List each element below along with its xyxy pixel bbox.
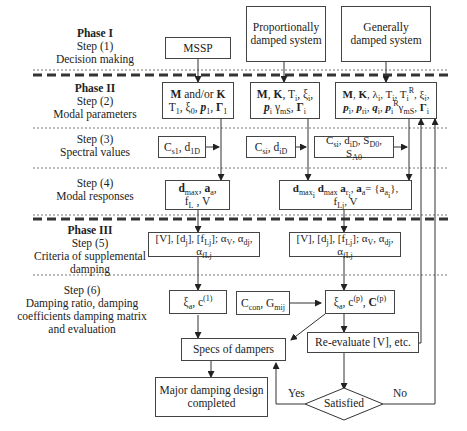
step1-label: Step (1) xyxy=(77,40,114,52)
modal-gen-line2: pi, pri, qi, piRγmS, Γi xyxy=(343,101,429,114)
damp-multi-text: ξa, c(p), C(p) xyxy=(334,296,386,309)
proportional-line1: Proportionally xyxy=(253,21,319,34)
phase2-title: Phase II xyxy=(75,82,116,94)
ccon-gmij-box: Ccon, Gmij xyxy=(236,291,290,315)
specs-text: Specs of dampers xyxy=(193,343,274,356)
phase1-label: Phase I Step (1) Decision making xyxy=(30,27,160,66)
proportional-line2: damped system xyxy=(250,34,321,47)
ccon-text: Ccon, Gmij xyxy=(241,297,285,310)
step3-desc: Spectral values xyxy=(60,146,130,158)
spectral-prop-box: Csi, diD xyxy=(246,136,296,158)
proportional-damped-box: Proportionally damped system xyxy=(246,6,326,62)
design-flowchart: Phase I Step (1) Decision making Phase I… xyxy=(0,0,467,431)
step2-label: Step (2) xyxy=(77,95,114,107)
modal-prop-line1: M, K, Ti, ξi, xyxy=(257,88,313,101)
modal-params-gen-box: M, K, λi, Ti, TiR, ξi, pi, pri, qi, piRγ… xyxy=(335,82,437,119)
generally-damped-box: Generally damped system xyxy=(341,6,431,62)
resp-mssp-line2: fL , V xyxy=(185,195,210,208)
step6-desc-3: and evaluation xyxy=(48,323,115,335)
step4-block: Step (4) Modal responses xyxy=(30,177,160,203)
modal-params-mssp-box: M and/or K T1, ξ0, p1, Γ1 xyxy=(162,82,234,119)
phase1-title: Phase I xyxy=(77,27,113,39)
modal-prop-line2: pi γmS, Γi xyxy=(264,101,306,114)
spec-mssp-text: Cs1, d1D xyxy=(164,141,200,154)
resp-multi-line1: dmaxi dmax ari, aa= {aai}, xyxy=(293,182,398,196)
modal-mssp-line1: M and/or K xyxy=(171,88,226,101)
major-line1: Major damping design xyxy=(159,384,263,397)
step6-desc-2: coefficients damping matrix xyxy=(17,310,146,322)
mssp-box: MSSP xyxy=(165,37,231,59)
reevaluate-text: Re-evaluate [V], etc. xyxy=(315,336,411,349)
crit-mssp-text: [V], [dj], [fLj]; αV, αdj, αfLj xyxy=(151,232,257,258)
spectral-gen-box: Csi, diD, SD0, SA0 xyxy=(314,136,394,158)
damping-multi-box: ξa, c(p), C(p) xyxy=(325,290,395,314)
major-design-completed-box: Major damping design completed xyxy=(155,377,268,417)
resp-multi-line2: fLj, V xyxy=(333,195,357,208)
crit-multi-text: [V], [dj], [fLj]; αV, αdj, αfLj xyxy=(292,232,398,258)
criteria-multi-box: [V], [dj], [fLj]; αV, αdj, αfLj xyxy=(289,232,401,257)
modal-response-multi-box: dmaxi dmax ari, aa= {aai}, fLj, V xyxy=(279,180,412,210)
no-label: No xyxy=(393,387,407,399)
step6-desc-1: Damping ratio, damping xyxy=(26,297,139,309)
modal-gen-line1: M, K, λi, Ti, TiR, ξi, xyxy=(343,88,430,101)
spec-gen-text: Csi, diD, SD0, SA0 xyxy=(317,134,391,160)
modal-params-prop-box: M, K, Ti, ξi, pi γmS, Γi xyxy=(250,82,320,119)
satisfied-label: Satisfied xyxy=(310,397,378,409)
step6-block: Step (6) Damping ratio, damping coeffici… xyxy=(12,284,152,336)
phase3-title: Phase III xyxy=(67,224,112,236)
step5-desc-1: Criteria of supplemental xyxy=(34,250,146,262)
step4-desc: Modal responses xyxy=(56,190,134,202)
specs-of-dampers-box: Specs of dampers xyxy=(181,338,286,361)
step2-desc: Modal parameters xyxy=(53,108,136,120)
step3-label: Step (3) xyxy=(77,133,114,145)
general-line2: damped system xyxy=(350,34,421,47)
step4-label: Step (4) xyxy=(77,177,114,189)
step5-desc-2: damping xyxy=(70,263,110,275)
mssp-text: MSSP xyxy=(183,42,212,55)
modal-response-mssp-box: dmax, aa, fL , V xyxy=(165,180,230,210)
phase2-label: Phase II Step (2) Modal parameters xyxy=(30,82,160,121)
resp-mssp-line1: dmax, aa, xyxy=(178,182,216,195)
step6-label: Step (6) xyxy=(64,284,101,296)
step1-desc: Decision making xyxy=(56,53,134,65)
step5-label: Step (5) xyxy=(72,237,109,249)
damp-mssp-text: ξa, c(1) xyxy=(184,296,213,309)
general-line1: Generally xyxy=(363,21,408,34)
spectral-mssp-box: Cs1, d1D xyxy=(158,136,206,158)
reevaluate-box: Re-evaluate [V], etc. xyxy=(307,332,419,353)
damping-mssp-box: ξa, c(1) xyxy=(169,290,227,314)
step3-block: Step (3) Spectral values xyxy=(30,133,160,159)
phase3-label: Phase III Step (5) Criteria of supplemen… xyxy=(20,224,160,276)
yes-label: Yes xyxy=(288,387,305,399)
criteria-mssp-box: [V], [dj], [fLj]; αV, αdj, αfLj xyxy=(148,232,260,257)
modal-mssp-line2: T1, ξ0, p1, Γ1 xyxy=(169,101,228,114)
major-line2: completed xyxy=(188,397,236,410)
spec-prop-text: Csi, diD xyxy=(255,141,288,154)
